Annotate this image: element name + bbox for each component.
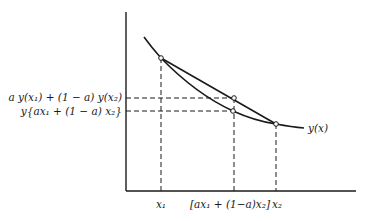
convex-function-diagram: y(x) a y(x₁) + (1 − a) y(x₂) y{ax₁ + (1 … [0, 0, 368, 221]
curve-label: y(x) [307, 122, 328, 134]
x-label-x1: x₁ [156, 198, 166, 210]
point-curve-mid [231, 109, 236, 114]
x-label-x2: x₂ [272, 198, 282, 210]
point-x2 [274, 122, 279, 127]
chord-line [161, 58, 276, 124]
point-x1 [159, 56, 164, 61]
y-label-function-value: y{ax₁ + (1 − a) x₂} [20, 105, 122, 118]
y-label-chord-value: a y(x₁) + (1 − a) y(x₂) [8, 91, 122, 103]
convex-curve [144, 37, 304, 128]
x-label-mid: [ax₁ + (1−a)x₂] [190, 198, 271, 210]
point-chord-mid [232, 96, 237, 101]
